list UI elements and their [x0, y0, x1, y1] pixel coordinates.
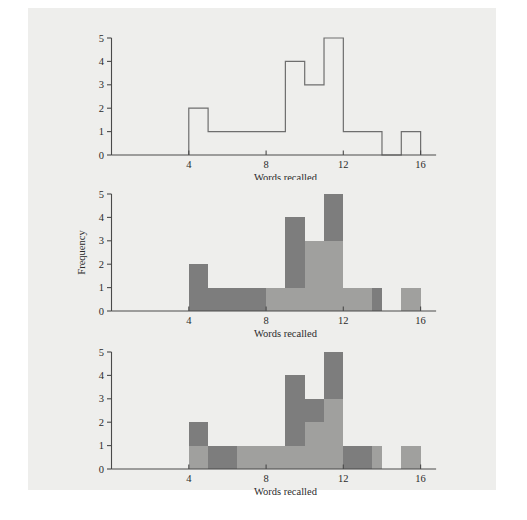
x-tick-label: 12: [338, 473, 349, 484]
bar-dark: [189, 264, 208, 311]
y-tick-label: 0: [99, 150, 104, 161]
bar-light-overlay: [305, 241, 324, 311]
x-tick-label: 16: [415, 473, 426, 484]
bar-dark: [247, 288, 266, 311]
x-tick-label: 4: [186, 473, 192, 484]
bar-light-overlay: [285, 288, 304, 311]
figure-container: 012345481216Words recalled 012345481216W…: [0, 0, 527, 520]
panel-middle: 012345481216Words recalledFrequency: [0, 175, 527, 355]
y-tick-label: 5: [99, 347, 104, 358]
y-tick-label: 2: [99, 103, 104, 114]
x-tick-label: 12: [338, 315, 349, 326]
bar-dark: [227, 288, 246, 311]
x-axis-title: Words recalled: [254, 486, 318, 497]
y-tick-label: 1: [99, 440, 104, 451]
x-tick-label: 8: [263, 315, 268, 326]
bar-dark: [208, 288, 227, 311]
y-tick-label: 2: [99, 417, 104, 428]
y-axis-title: Frequency: [76, 230, 87, 275]
x-tick-label: 12: [338, 159, 349, 170]
x-tick-label: 16: [415, 159, 426, 170]
y-tick-label: 3: [99, 235, 104, 246]
y-tick-label: 0: [99, 464, 104, 475]
panel-top: 012345481216Words recalled: [0, 0, 527, 180]
y-tick-label: 5: [99, 33, 104, 44]
x-tick-label: 8: [263, 159, 268, 170]
x-tick-label: 16: [415, 315, 426, 326]
y-tick-label: 4: [99, 212, 105, 223]
bar-light-overlay: [343, 288, 362, 311]
y-tick-label: 1: [99, 282, 104, 293]
bar-light-overlay: [363, 288, 373, 311]
y-tick-label: 4: [99, 370, 105, 381]
y-tick-label: 2: [99, 259, 104, 270]
histogram-outline: [189, 38, 421, 155]
panel-bottom: 012345481216Words recalled: [0, 330, 527, 510]
y-tick-label: 3: [99, 79, 104, 90]
x-tick-label: 4: [186, 315, 192, 326]
bar-light: [401, 446, 420, 469]
y-tick-label: 3: [99, 393, 104, 404]
bar-light: [247, 446, 266, 469]
y-tick-label: 1: [99, 126, 104, 137]
bar-light-overlay: [324, 241, 343, 311]
y-tick-label: 5: [99, 189, 104, 200]
bar-dark-overlay: [189, 422, 208, 445]
bar-light-overlay: [401, 288, 420, 311]
bar-light: [266, 446, 285, 469]
bar-light-overlay: [266, 288, 285, 311]
bar-dark-overlay: [285, 375, 304, 445]
y-tick-label: 4: [99, 56, 105, 67]
bar-dark-overlay: [305, 399, 324, 422]
bar-dark-overlay: [343, 446, 372, 469]
bar-dark-overlay: [208, 446, 237, 469]
x-tick-label: 4: [186, 159, 192, 170]
bar-dark-overlay: [324, 352, 343, 399]
x-tick-label: 8: [263, 473, 268, 484]
y-tick-label: 0: [99, 306, 104, 317]
